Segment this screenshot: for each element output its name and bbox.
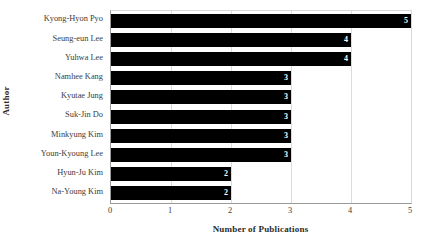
- bar: 4: [111, 52, 351, 66]
- bar-value-label: 3: [284, 132, 288, 140]
- x-axis-tick-label: 2: [220, 206, 240, 215]
- bar-row: 3: [111, 69, 411, 88]
- y-axis-tick-label: Kyutae Jung: [14, 87, 107, 106]
- bar-row: 3: [111, 107, 411, 126]
- bar: 3: [111, 71, 291, 85]
- y-axis-title: Author: [1, 77, 11, 125]
- bar-row: 3: [111, 145, 411, 164]
- y-axis-tick-label: Kyong-Hyon Pyo: [14, 10, 107, 29]
- y-axis-tick-label: Na-Young Kim: [14, 183, 107, 202]
- bar-value-label: 3: [284, 93, 288, 101]
- bar: 2: [111, 186, 231, 200]
- bar: 3: [111, 129, 291, 143]
- y-axis-tick-label: Hyun-Ju Kim: [14, 164, 107, 183]
- bar-row: 3: [111, 126, 411, 145]
- y-axis-tick-label: Seung-eun Lee: [14, 29, 107, 48]
- bar-row: 3: [111, 88, 411, 107]
- x-axis-tick-labels: 012345: [110, 206, 411, 220]
- y-axis-tick-label: Suk-Jin Do: [14, 106, 107, 125]
- publications-by-author-bar-chart: Author Kyong-Hyon PyoSeung-eun LeeYuhwa …: [0, 0, 427, 246]
- bar: 3: [111, 148, 291, 162]
- y-axis-tick-label: Youn-Kyoung Lee: [14, 144, 107, 163]
- bar-value-label: 4: [344, 36, 348, 44]
- y-axis-tick-label: Namhee Kang: [14, 68, 107, 87]
- bar-row: 4: [111, 49, 411, 68]
- bar: 2: [111, 167, 231, 181]
- x-axis-tick-label: 5: [400, 206, 420, 215]
- bar-row: 5: [111, 11, 411, 30]
- x-axis-tick-label: 3: [280, 206, 300, 215]
- x-axis-tick-label: 4: [340, 206, 360, 215]
- bar-value-label: 5: [404, 17, 408, 25]
- y-axis-tick-labels: Kyong-Hyon PyoSeung-eun LeeYuhwa LeeNamh…: [14, 10, 107, 202]
- bar-value-label: 3: [284, 74, 288, 82]
- bar-row: 4: [111, 30, 411, 49]
- plot-area: 5443333322: [110, 10, 412, 204]
- bar: 5: [111, 14, 411, 28]
- bar-row: 2: [111, 165, 411, 184]
- y-axis-tick-label: Yuhwa Lee: [14, 48, 107, 67]
- bar: 3: [111, 90, 291, 104]
- x-axis-title: Number of Publications: [110, 224, 411, 234]
- bar-value-label: 4: [344, 55, 348, 63]
- x-axis-tick-label: 0: [100, 206, 120, 215]
- bar: 4: [111, 33, 351, 47]
- bar: 3: [111, 110, 291, 124]
- bar-value-label: 2: [224, 170, 228, 178]
- bar-value-label: 3: [284, 151, 288, 159]
- y-axis-tick-label: Minkyung Kim: [14, 125, 107, 144]
- bar-value-label: 2: [224, 189, 228, 197]
- bar-value-label: 3: [284, 113, 288, 121]
- bar-row: 2: [111, 184, 411, 203]
- bar-series: 5443333322: [111, 11, 411, 203]
- x-axis-tick-label: 1: [160, 206, 180, 215]
